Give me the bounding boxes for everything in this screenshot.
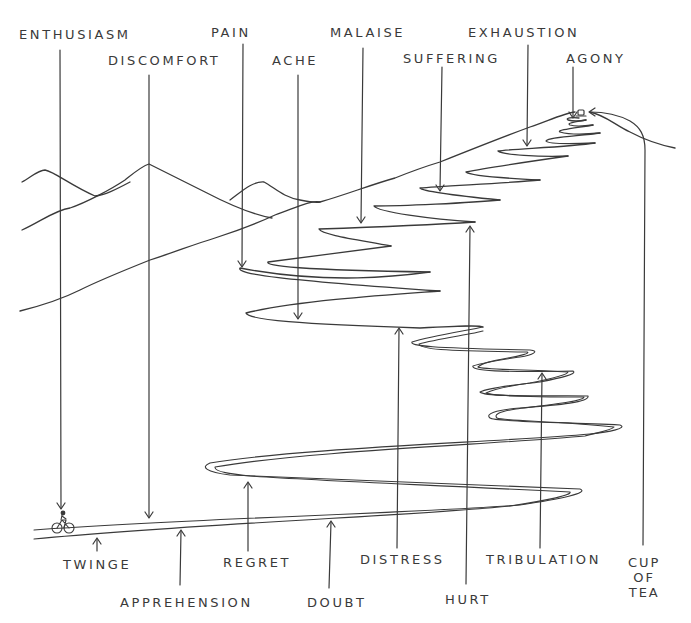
upper-switchbacks [240,118,600,328]
label-hurt: HURT [445,593,491,606]
switchback-mountain-illustration [0,0,691,623]
label-distress: DISTRESS [360,553,445,566]
lower-switchbacks [34,327,622,539]
pointer-tribulation [538,373,546,548]
pointer-exhaustion [523,45,531,146]
pointer-discomfort [145,75,153,518]
pointer-cup-of-tea [589,108,645,545]
label-regret: REGRET [223,556,291,569]
label-twinge: TWINGE [63,558,131,571]
label-suffering: SUFFERING [403,52,500,65]
label-discomfort: DISCOMFORT [108,54,220,67]
label-tribulation: TRIBULATION [486,553,601,566]
pointer-twinge [93,538,101,551]
label-cup-of-tea: CUP OF TEA [628,556,660,601]
label-agony: AGONY [566,52,626,65]
label-pointers [57,44,645,588]
pointer-pain [238,44,246,267]
pointer-ache [294,75,302,319]
label-malaise: MALAISE [330,26,405,39]
background-mountains [20,112,675,311]
label-enthusiasm: ENTHUSIASM [19,28,131,41]
label-doubt: DOUBT [307,596,367,609]
mountain-small-left [22,170,130,196]
pointer-hurt [466,226,474,584]
summit-ridge-right [590,112,675,148]
pointer-doubt [327,521,335,588]
cyclist-icon [52,511,74,533]
pointer-apprehension [177,530,185,585]
label-ache: ACHE [272,54,318,67]
pointer-suffering [436,67,444,191]
pointer-enthusiasm [57,50,65,509]
pointer-regret [244,482,252,551]
pointer-malaise [357,48,365,223]
label-exhaustion: EXHAUSTION [468,26,579,39]
label-pain: PAIN [211,26,251,39]
pointer-agony [569,67,577,118]
cup-of-tea-icon [576,110,586,116]
mountain-small-right [230,182,320,202]
label-apprehension: APPREHENSION [120,596,253,609]
